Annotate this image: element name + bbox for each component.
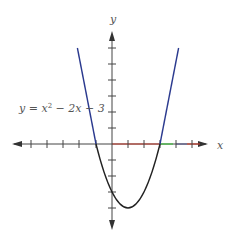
parabola-right-branch — [160, 48, 179, 144]
y-axis-label: y — [109, 13, 117, 26]
equation-label: y = x2 − 2x − 3 — [18, 102, 105, 115]
parabola-plot: y x y = x2 − 2x − 3 — [0, 0, 232, 243]
y-axis-up-arrow-icon — [109, 31, 115, 41]
x-axis-label: x — [217, 139, 224, 152]
parabola-lower-segment — [96, 144, 160, 208]
x-axis-left-arrow-icon — [12, 141, 22, 147]
parabola-left-branch — [77, 48, 96, 144]
y-axis-down-arrow-icon — [109, 220, 115, 230]
